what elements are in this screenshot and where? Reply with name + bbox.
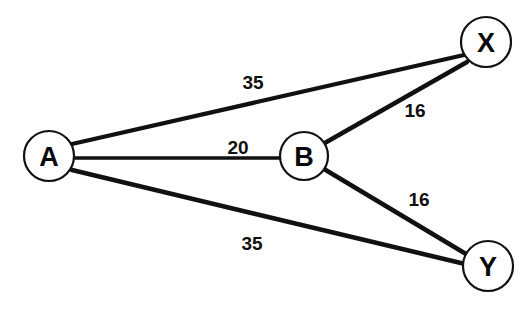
node-label-y: Y [479,252,497,282]
edge-weight-b-x: 16 [404,100,425,121]
node-label-a: A [39,142,59,172]
graph-canvas: A B X Y 35 20 35 16 16 [0,0,530,309]
edge-weight-a-y: 35 [241,233,263,254]
node-label-layer: A B X Y [39,28,497,282]
edge-weight-a-b: 20 [227,137,248,158]
node-layer [24,17,513,291]
edge-weight-b-y: 16 [408,189,429,210]
edge-b-x [323,62,467,144]
graph-diagram: A B X Y 35 20 35 16 16 [0,0,530,309]
edge-weight-a-x: 35 [242,72,264,93]
edge-layer [72,55,467,264]
edge-b-y [324,169,466,254]
node-label-x: X [477,28,495,58]
node-label-b: B [294,142,314,172]
